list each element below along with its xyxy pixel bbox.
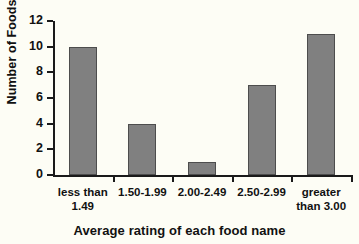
x-axis-tick-label-line: than 3.00 (285, 200, 357, 214)
y-axis-tick-label: 12 (3, 13, 43, 27)
bar (307, 34, 335, 175)
y-axis-tick-label: 8 (3, 64, 43, 78)
x-axis-tick (172, 176, 174, 182)
y-axis-tick-label: 6 (3, 90, 43, 104)
x-axis-title: Average rating of each food name (0, 223, 359, 238)
x-axis-line (53, 175, 353, 177)
x-axis-tick (113, 176, 115, 182)
x-axis-tick-label-line: 1.49 (47, 200, 119, 214)
bar (128, 124, 156, 175)
x-axis-tick-label-line: greater (285, 186, 357, 200)
bar (69, 47, 97, 175)
x-axis-tick (291, 176, 293, 182)
bar-chart: Number of Foods 024681012 less than1.491… (0, 0, 359, 244)
plot-area (53, 21, 351, 175)
bar (248, 85, 276, 175)
bar (188, 162, 216, 175)
y-axis-tick-label: 4 (3, 116, 43, 130)
y-axis-tick-label: 10 (3, 39, 43, 53)
x-axis-tick (351, 176, 353, 182)
x-axis-tick (232, 176, 234, 182)
x-axis-tick-label: greaterthan 3.00 (285, 186, 357, 213)
y-axis-tick-label: 2 (3, 141, 43, 155)
y-axis-tick-label: 0 (3, 167, 43, 181)
